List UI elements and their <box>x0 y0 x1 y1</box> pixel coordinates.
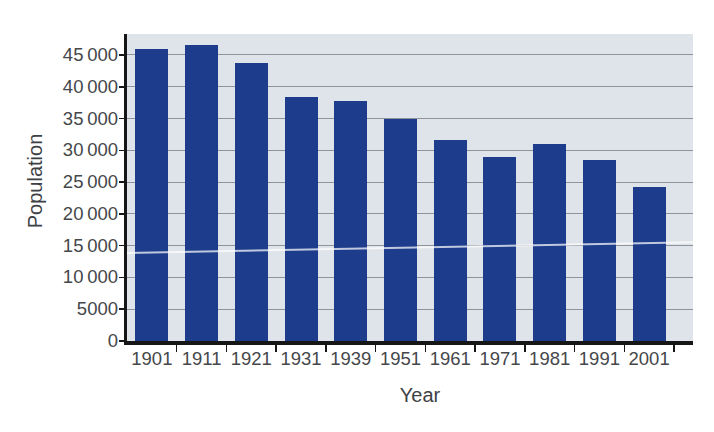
bar-1981 <box>533 144 566 341</box>
bar-1931 <box>285 97 318 341</box>
bar-1971 <box>483 157 516 341</box>
x-axis-line <box>124 341 693 345</box>
bar-1939 <box>334 101 367 341</box>
bar-1951 <box>384 119 417 341</box>
bar-1921 <box>235 63 268 341</box>
y-axis-title: Population <box>24 134 47 229</box>
bar-1901 <box>135 49 168 341</box>
bar-1911 <box>185 45 218 341</box>
y-tick-label: 0 <box>40 330 118 352</box>
y-tick-label: 20 000 <box>40 203 118 225</box>
y-tick-label: 30 000 <box>40 139 118 161</box>
y-axis-line <box>124 34 127 345</box>
x-tick-label: 2001 <box>619 348 679 370</box>
bar-2001 <box>633 187 666 341</box>
x-axis-title: Year <box>400 384 440 407</box>
y-tick-label: 35 000 <box>40 108 118 130</box>
y-tick-label: 10 000 <box>40 266 118 288</box>
y-tick-label: 5000 <box>40 298 118 320</box>
y-tick-label: 25 000 <box>40 171 118 193</box>
y-tick-label: 15 000 <box>40 235 118 257</box>
bar-1961 <box>434 140 467 341</box>
y-tick-label: 40 000 <box>40 76 118 98</box>
x-axis-tick <box>673 344 675 352</box>
bar-1991 <box>583 160 616 341</box>
y-tick-label: 45 000 <box>40 44 118 66</box>
population-bar-chart: 0500010 00015 00020 00025 00030 00035 00… <box>0 0 714 432</box>
